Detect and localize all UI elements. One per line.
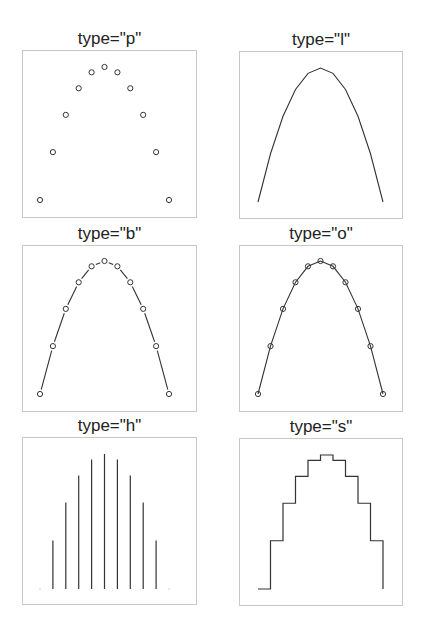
panel-title: type="b" [22, 224, 197, 244]
data-point-marker [37, 391, 42, 396]
data-point-marker [76, 280, 81, 285]
data-line-segment [132, 286, 141, 304]
panel-title: type="l" [239, 30, 403, 50]
data-line-segment [157, 351, 168, 390]
data-point-marker [76, 86, 81, 91]
data-point-marker [128, 280, 133, 285]
data-line-segment [54, 313, 64, 342]
plot-area [22, 437, 197, 605]
data-point-marker [166, 391, 171, 396]
data-point-marker [50, 344, 55, 349]
data-point-marker [63, 112, 68, 117]
plot-area [239, 51, 403, 219]
data-point-marker [141, 306, 146, 311]
panel-title: type="p" [22, 29, 197, 49]
data-point-marker [166, 197, 171, 202]
plot-area [22, 50, 197, 218]
data-point-marker [63, 306, 68, 311]
data-point-marker [128, 86, 133, 91]
data-line [258, 68, 383, 202]
data-point-marker [102, 64, 107, 69]
plot-area [239, 438, 403, 606]
plot-area [239, 245, 403, 412]
data-line-segment [41, 351, 52, 390]
data-point-marker [141, 112, 146, 117]
panel-type-o: type="o" [239, 245, 403, 412]
panel-type-p: type="p" [22, 50, 197, 218]
data-line-segment [120, 270, 127, 279]
data-point-marker [154, 344, 159, 349]
step-line [258, 455, 383, 589]
data-point-marker [89, 70, 94, 75]
data-point-marker [154, 150, 159, 155]
data-point-marker [115, 70, 120, 75]
data-point-marker [37, 197, 42, 202]
data-line-segment [96, 263, 100, 265]
data-line-segment [68, 286, 77, 304]
data-point-marker [50, 150, 55, 155]
panel-title: type="h" [22, 416, 197, 436]
panel-title: type="o" [239, 224, 403, 244]
plot-area [22, 245, 197, 412]
bar-stub [168, 588, 169, 589]
data-line-segment [82, 270, 89, 279]
data-line [258, 261, 383, 394]
panel-title: type="s" [239, 417, 403, 437]
faint-header-text [25, 2, 95, 8]
data-point-marker [115, 264, 120, 269]
data-line-segment [145, 313, 155, 342]
data-point-marker [89, 264, 94, 269]
panel-type-b: type="b" [22, 245, 197, 412]
data-line-segment [109, 263, 113, 265]
panel-type-l: type="l" [239, 51, 403, 219]
bar-stub [39, 588, 40, 589]
data-point-marker [102, 258, 107, 263]
panel-type-s: type="s" [239, 438, 403, 606]
panel-type-h: type="h" [22, 437, 197, 605]
